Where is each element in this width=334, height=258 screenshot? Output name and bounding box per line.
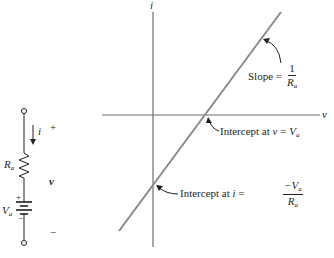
top-terminal (22, 109, 27, 114)
slope-den-sub: a (294, 82, 298, 90)
voltage-label: v (49, 176, 54, 187)
current-label: i (38, 126, 41, 137)
bottom-terminal (22, 241, 27, 246)
v-intercept-val: V (289, 125, 296, 137)
resistor (19, 153, 29, 178)
source-plus-label: + (16, 193, 21, 202)
i-intercept-fraction: −Va Ra (283, 180, 303, 209)
v-intercept-eq: = (277, 125, 289, 137)
slope-arrowhead (263, 38, 270, 44)
slope-den-main: R (287, 76, 294, 88)
i-num-main: −V (284, 179, 298, 191)
i-intercept-label: Intercept at i = (180, 188, 245, 199)
slope-text: Slope = (248, 71, 282, 82)
source-label-main: V (2, 204, 9, 216)
i-intercept-eq: = (236, 187, 245, 199)
i-den-sub: a (294, 201, 298, 209)
resistor-label-sub: a (11, 164, 15, 172)
v-intercept-text: Intercept at (220, 125, 273, 137)
i-intercept-denominator: Ra (288, 195, 298, 209)
source-label-sub: a (9, 210, 13, 218)
v-intercept-val-sub: a (296, 131, 300, 139)
v-intercept-arrowhead (206, 117, 212, 123)
plus-top-label: + (50, 122, 56, 133)
v-axis-label: v (322, 109, 327, 120)
circuit-diagram (16, 109, 33, 246)
current-arrowhead (30, 139, 36, 145)
v-intercept-label: Intercept at v = Va (220, 126, 299, 139)
slope-numerator: 1 (288, 63, 296, 76)
source-minus-label: − (18, 214, 23, 223)
resistor-label: Ra (4, 159, 14, 172)
iv-characteristic-figure: i v Slope = 1 Ra Intercept at v = Va Int… (0, 0, 334, 258)
i-axis-label: i (150, 0, 153, 11)
slope-denominator: Ra (287, 76, 297, 90)
i-intercept-text: Intercept at (180, 187, 233, 199)
minus-bottom-label: − (50, 227, 56, 238)
source-label: Va (2, 205, 12, 218)
slope-arrow (265, 40, 281, 63)
resistor-label-main: R (4, 158, 11, 170)
i-intercept-numerator: −Va (283, 180, 303, 195)
slope-fraction: 1 Ra (287, 63, 297, 90)
i-num-sub: a (298, 185, 302, 193)
